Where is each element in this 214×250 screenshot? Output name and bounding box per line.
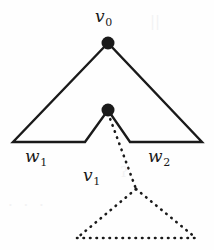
dotted-edge-v1-to-subtree (108, 113, 136, 189)
label-w2-subscript: 2 (163, 156, 170, 169)
label-v0-base: v (95, 6, 105, 26)
figure-root: || · · · ʔ v0 w1 w2 v1 (0, 0, 214, 250)
label-w2: w2 (148, 148, 170, 165)
label-v0: v0 (95, 8, 112, 25)
label-w1-subscript: 1 (40, 156, 47, 169)
label-w1-base: w (25, 146, 40, 166)
label-v1-base: v (83, 165, 93, 185)
inner-dotted-triangle-left-edge (77, 189, 136, 238)
label-v0-subscript: 0 (105, 16, 112, 29)
vertex-v0-dot (102, 37, 115, 50)
vertex-v1-dot (102, 104, 115, 117)
label-w1: w1 (25, 148, 47, 165)
label-w2-base: w (148, 146, 163, 166)
diagram-svg (0, 0, 214, 250)
inner-dotted-triangle-right-edge (136, 189, 196, 238)
label-v1-subscript: 1 (93, 175, 100, 188)
label-v1: v1 (83, 167, 100, 184)
outer-solid-triangle-path (13, 43, 202, 142)
